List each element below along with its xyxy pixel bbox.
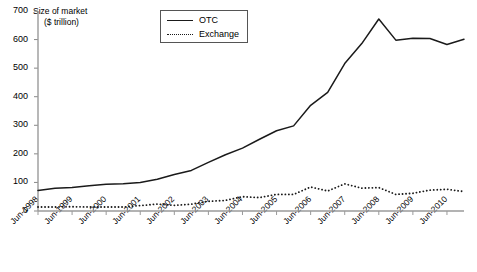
legend-label-exchange: Exchange [199,29,239,39]
series-line-otc [38,19,464,190]
chart-legend: OTC Exchange [160,10,248,43]
data-series [38,19,464,207]
legend-item-otc: OTC [167,14,218,26]
legend-label-otc: OTC [199,15,218,25]
series-line-exchange [38,184,464,207]
derivatives-market-size-chart: Size of market ($ trillion) 010020030040… [0,0,477,272]
legend-swatch-dotted-icon [167,34,193,35]
legend-item-exchange: Exchange [167,28,239,40]
legend-swatch-solid-icon [167,20,193,21]
